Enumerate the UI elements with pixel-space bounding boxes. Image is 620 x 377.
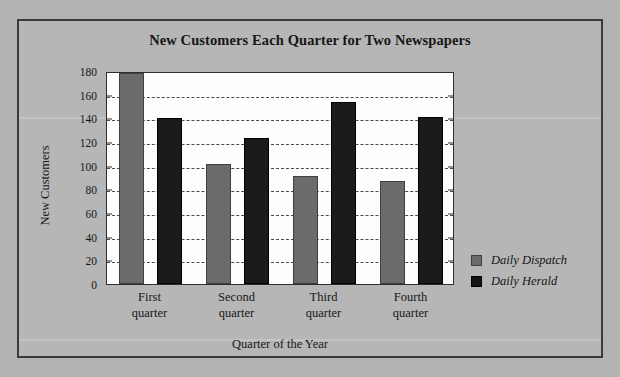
- x-tick-label-first-quarter: Firstquarter: [132, 289, 167, 321]
- legend-item-daily-dispatch: Daily Dispatch: [471, 250, 567, 271]
- legend-label: Daily Herald: [491, 274, 557, 289]
- bar-daily-dispatch-second-quarter: [206, 164, 231, 284]
- y-tick-label-120: 120: [80, 137, 97, 149]
- bar-daily-herald-fourth-quarter: [418, 117, 443, 284]
- chart-figure: New Customers Each Quarter for Two Newsp…: [17, 19, 603, 358]
- legend-swatch-icon: [471, 255, 482, 266]
- y-tick-mark-80: [106, 190, 112, 191]
- y-axis-title: New Customers: [38, 116, 53, 256]
- y-tick-mark-100: [106, 166, 112, 167]
- plot-area: [106, 72, 454, 285]
- y-tick-mark-right-120: [448, 143, 454, 144]
- x-tick-label-second-quarter: Secondquarter: [218, 289, 255, 321]
- y-tick-label-40: 40: [86, 232, 98, 244]
- x-tick-label-line: quarter: [218, 305, 255, 321]
- x-tick-label-line: quarter: [306, 305, 341, 321]
- y-tick-label-0: 0: [91, 279, 97, 291]
- y-tick-mark-right-60: [448, 214, 454, 215]
- bar-daily-herald-third-quarter: [331, 102, 356, 284]
- y-tick-mark-right-140: [448, 119, 454, 120]
- x-axis-title: Quarter of the Year: [106, 337, 454, 352]
- y-tick-mark-60: [106, 214, 112, 215]
- y-tick-label-180: 180: [80, 66, 97, 78]
- y-axis-tick-labels: 020406080100120140160180: [59, 72, 103, 285]
- legend-label: Daily Dispatch: [491, 253, 567, 268]
- x-tick-label-line: First: [132, 289, 167, 305]
- legend-item-daily-herald: Daily Herald: [471, 271, 567, 292]
- y-tick-mark-140: [106, 119, 112, 120]
- y-tick-mark-20: [106, 261, 112, 262]
- y-tick-label-100: 100: [80, 161, 97, 173]
- bar-daily-herald-second-quarter: [244, 138, 269, 284]
- bar-daily-dispatch-first-quarter: [119, 73, 144, 284]
- y-tick-mark-right-160: [448, 95, 454, 96]
- x-axis-tick-labels: FirstquarterSecondquarterThirdquarterFou…: [106, 289, 454, 333]
- y-tick-mark-160: [106, 95, 112, 96]
- y-tick-label-20: 20: [86, 255, 98, 267]
- legend-swatch-icon: [471, 276, 482, 287]
- y-tick-mark-120: [106, 143, 112, 144]
- y-tick-label-60: 60: [86, 208, 98, 220]
- x-tick-label-fourth-quarter: Fourthquarter: [393, 289, 428, 321]
- y-tick-mark-right-40: [448, 237, 454, 238]
- x-tick-label-line: Fourth: [393, 289, 428, 305]
- y-tick-label-160: 160: [80, 90, 97, 102]
- x-tick-label-line: Second: [218, 289, 255, 305]
- x-tick-label-line: quarter: [132, 305, 167, 321]
- bar-daily-herald-first-quarter: [157, 118, 182, 284]
- y-tick-mark-40: [106, 237, 112, 238]
- x-tick-label-line: Third: [306, 289, 341, 305]
- gridline-160: [107, 97, 453, 98]
- bar-daily-dispatch-third-quarter: [293, 176, 318, 284]
- chart-legend: Daily DispatchDaily Herald: [471, 250, 567, 292]
- y-tick-mark-right-100: [448, 166, 454, 167]
- x-tick-label-line: quarter: [393, 305, 428, 321]
- y-tick-label-80: 80: [86, 184, 98, 196]
- bar-daily-dispatch-fourth-quarter: [380, 181, 405, 284]
- y-tick-mark-right-80: [448, 190, 454, 191]
- y-tick-label-140: 140: [80, 113, 97, 125]
- y-tick-mark-right-20: [448, 261, 454, 262]
- chart-title: New Customers Each Quarter for Two Newsp…: [19, 32, 601, 49]
- x-tick-label-third-quarter: Thirdquarter: [306, 289, 341, 321]
